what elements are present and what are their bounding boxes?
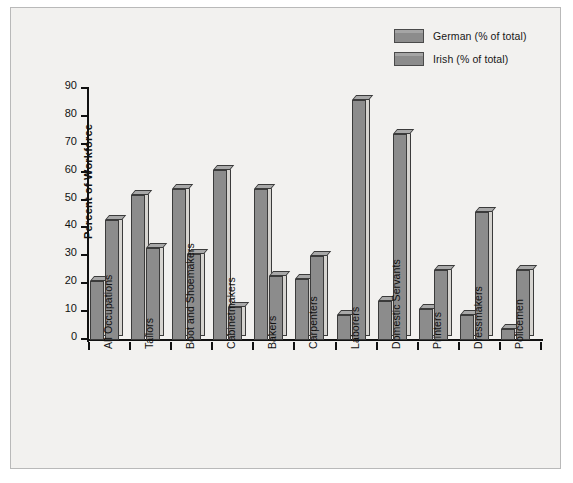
bar-side (201, 250, 205, 336)
x-axis-label: All Occupations (102, 275, 114, 349)
bar-top (146, 243, 167, 248)
x-axis-label: Tailors (143, 318, 155, 349)
x-axis-label: Cabinetmakers (225, 277, 237, 349)
bar-side (489, 208, 493, 336)
bar-top (310, 251, 331, 256)
bar (352, 100, 366, 340)
legend-swatch-german (394, 29, 424, 43)
chart-legend: German (% of total) Irish (% of total) (394, 26, 554, 72)
bar-top (516, 265, 537, 270)
bar-side (448, 266, 452, 336)
y-tick: 0 (81, 338, 88, 340)
bar-top (475, 207, 496, 212)
bar-top (393, 129, 414, 134)
x-axis-label: Laborers (349, 307, 361, 349)
y-tick-label: 60 (53, 163, 77, 175)
x-axis-label: Carpenters (307, 296, 319, 349)
legend-item-irish: Irish (% of total) (394, 49, 554, 68)
y-tick: 50 (81, 199, 88, 201)
y-tick-label: 50 (53, 191, 77, 203)
bar-side (366, 96, 370, 336)
y-tick: 20 (81, 282, 88, 284)
bar-side (530, 266, 534, 336)
y-tick-label: 10 (53, 302, 77, 314)
bar-side (324, 252, 328, 336)
y-tick: 90 (81, 87, 88, 89)
x-axis-label: Dressmakers (472, 286, 484, 349)
bar-side (407, 130, 411, 336)
bar-top (131, 190, 152, 195)
y-tick-label: 70 (53, 135, 77, 147)
x-axis-label: Printers (431, 312, 443, 349)
chart-figure: German (% of total) Irish (% of total) P… (10, 7, 561, 469)
legend-label-german: German (% of total) (433, 30, 527, 42)
y-tick-label: 20 (53, 274, 77, 286)
y-axis-title: Percent of Workforce (82, 124, 94, 239)
x-axis-label: Domestic Servants (390, 259, 402, 349)
bar-top (105, 215, 126, 220)
bar-side (160, 244, 164, 336)
y-tick-label: 80 (53, 107, 77, 119)
bar-top (269, 271, 290, 276)
y-tick-label: 90 (53, 79, 77, 91)
y-tick-label: 40 (53, 218, 77, 230)
y-tick-label: 0 (53, 330, 77, 342)
bar-top (254, 184, 275, 189)
bar-side (283, 272, 287, 336)
y-tick: 40 (81, 226, 88, 228)
y-tick: 10 (81, 310, 88, 312)
bar-top (434, 265, 455, 270)
legend-item-german: German (% of total) (394, 26, 554, 45)
y-tick: 80 (81, 115, 88, 117)
legend-swatch-irish (394, 52, 424, 66)
bar-top (213, 165, 234, 170)
bar-side (242, 303, 246, 336)
y-tick: 70 (81, 143, 88, 145)
x-axis-labels: All OccupationsTailorsBoot and Shoemaker… (88, 349, 544, 464)
bar-top (352, 95, 373, 100)
y-tick-label: 30 (53, 246, 77, 258)
bar-side (119, 216, 123, 336)
y-tick: 60 (81, 171, 88, 173)
x-axis-label: Boot and Shoemakers (184, 243, 196, 349)
bar-top (172, 184, 193, 189)
legend-label-irish: Irish (% of total) (433, 53, 508, 65)
x-axis-label: Bakers (266, 316, 278, 349)
x-axis-label: Policemen (513, 299, 525, 349)
y-tick: 30 (81, 254, 88, 256)
bar-face (352, 100, 366, 340)
